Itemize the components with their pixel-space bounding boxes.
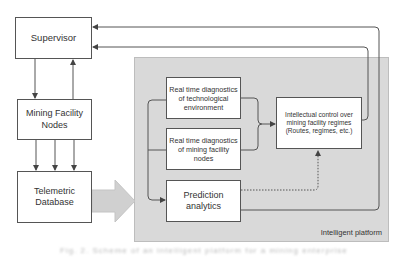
prediction-analytics-node: Prediction analytics <box>166 180 241 222</box>
block-arrow <box>92 180 135 222</box>
telemetric-database-label: Telemetric Database <box>30 186 79 209</box>
prediction-analytics-label: Prediction analytics <box>177 190 230 213</box>
mining-facility-nodes-label: Mining Facility Nodes <box>18 108 91 131</box>
rt-diagnostics-tech-env-label: Real time diagnostics of technological e… <box>169 85 238 112</box>
supervisor-label: Supervisor <box>31 32 76 44</box>
rt-diagnostics-tech-env-node: Real time diagnostics of technological e… <box>166 77 241 119</box>
telemetric-database-node: Telemetric Database <box>17 171 92 223</box>
supervisor-node: Supervisor <box>15 17 92 59</box>
mining-facility-nodes-node: Mining Facility Nodes <box>17 99 92 140</box>
intellectual-control-node: Intellectual control over mining facilit… <box>276 97 362 149</box>
figure-caption: Fig. 2. Scheme of an intelligent platfor… <box>60 246 348 255</box>
rt-diagnostics-mining-nodes-label: Real time diagnostics of mining facility… <box>169 136 238 163</box>
rt-diagnostics-mining-nodes-node: Real time diagnostics of mining facility… <box>166 128 241 170</box>
intellectual-control-label: Intellectual control over mining facilit… <box>281 111 357 136</box>
